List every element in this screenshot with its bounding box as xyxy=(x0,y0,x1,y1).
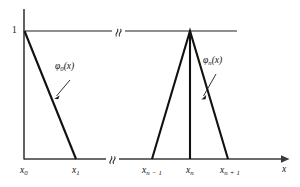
tick-label-xn: xn xyxy=(186,166,194,176)
phin-argument: (x) xyxy=(212,55,223,65)
phi0-leader-line xyxy=(57,80,71,96)
phi0-curve xyxy=(25,31,77,159)
phi0-subscript: 0 xyxy=(60,65,63,72)
tick-sub-xn: n xyxy=(190,169,194,176)
tick-label-xn-plus-1: xn + 1 xyxy=(220,166,240,176)
y-value-label-1: 1 xyxy=(12,26,17,36)
diagram-svg xyxy=(0,0,300,187)
phi0-label: φ0(x) xyxy=(55,62,74,72)
tick-label-x1: x1 xyxy=(72,166,80,176)
figure-canvas: 1 x x0 x1 xn − 1 xn xn + 1 φ0(x) φn(x) xyxy=(0,0,300,187)
tick-sub-xn-minus-1: n − 1 xyxy=(146,169,162,176)
phin-label: φn(x) xyxy=(203,56,222,66)
x-axis-break-mask xyxy=(106,152,119,164)
x-axis-arrowhead xyxy=(281,155,290,162)
tick-sub-x0: 0 xyxy=(24,169,28,176)
tick-label-x0: x0 xyxy=(20,166,28,176)
tick-sub-x1: 1 xyxy=(76,169,80,176)
phin-subscript: n xyxy=(208,59,211,66)
unit-line-break-mask xyxy=(112,25,125,37)
tick-label-xn-minus-1: xn − 1 xyxy=(142,166,162,176)
phi0-argument: (x) xyxy=(64,61,75,71)
x-axis-label: x xyxy=(282,165,286,175)
tick-sub-xn-plus-1: n + 1 xyxy=(224,169,240,176)
